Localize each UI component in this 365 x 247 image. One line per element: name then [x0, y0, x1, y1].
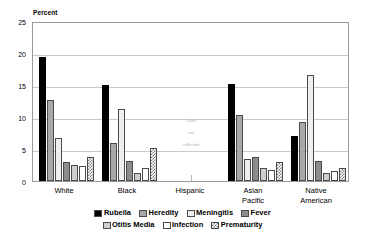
legend-item-otitis-media[interactable]: Otitis Media: [103, 221, 155, 229]
legend-label: Infection: [172, 221, 203, 229]
legend-swatch-icon: [241, 210, 249, 217]
no-data-line: not: [168, 127, 214, 139]
bar-chart: Percent 25 20 15 10 5 0 Datanotcollected…: [0, 0, 365, 247]
bar-asian-pacific-rubella: [228, 84, 235, 181]
legend-row-top: RubellaHeredityMeningitisFever: [0, 207, 365, 219]
bar-native-american-otitis-media: [323, 173, 330, 181]
legend-item-infection[interactable]: Infection: [163, 221, 204, 229]
bar-group-white: [39, 23, 95, 181]
bar-group-native-american: [291, 23, 347, 181]
legend-row-bottom: Otitis MediaInfectionPrematurity: [0, 219, 365, 231]
x-label-line: White: [33, 186, 95, 196]
legend-swatch-icon: [94, 210, 102, 217]
legend-swatch-icon: [187, 210, 195, 217]
x-label-line: Black: [96, 186, 158, 196]
y-tick-label-25: 25: [0, 19, 26, 26]
bar-white-prematurity: [87, 157, 94, 181]
legend-item-prematurity[interactable]: Prematurity: [211, 221, 262, 229]
bar-black-heredity: [110, 143, 117, 181]
bar-white-infection: [79, 166, 86, 181]
bar-black-infection: [142, 168, 149, 181]
legend-swatch-icon: [163, 222, 171, 229]
no-data-line: Data: [168, 115, 214, 127]
legend-label: Heredity: [148, 209, 178, 217]
x-label-hispanic: Hispanic: [159, 186, 221, 196]
legend-label: Fever: [251, 209, 271, 217]
legend-item-fever[interactable]: Fever: [241, 209, 271, 217]
x-label-line: Native: [285, 186, 347, 196]
y-axis-title: Percent: [33, 9, 58, 16]
x-label-line: Hispanic: [159, 186, 221, 196]
bar-white-heredity: [47, 100, 54, 181]
no-data-tick: [191, 175, 192, 181]
bar-white-fever: [63, 162, 70, 181]
legend-label: Meningitis: [196, 209, 233, 217]
bar-white-rubella: [39, 57, 46, 181]
legend-item-meningitis[interactable]: Meningitis: [187, 209, 234, 217]
x-label-line: American: [285, 196, 347, 206]
bar-native-american-prematurity: [339, 168, 346, 181]
y-tick-label-20: 20: [0, 51, 26, 58]
no-data-annotation: Datanotcollected: [168, 115, 214, 151]
bar-native-american-heredity: [299, 122, 306, 181]
legend-label: Otitis Media: [112, 221, 155, 229]
bar-asian-pacific-infection: [268, 170, 275, 181]
bar-native-american-meningitis: [307, 75, 314, 181]
legend-item-heredity[interactable]: Heredity: [139, 209, 179, 217]
bar-black-meningitis: [118, 109, 125, 181]
bar-black-fever: [126, 161, 133, 181]
legend-swatch-icon: [211, 222, 219, 229]
legend-item-rubella[interactable]: Rubella: [94, 209, 131, 217]
legend-swatch-icon: [103, 222, 111, 229]
bar-asian-pacific-prematurity: [276, 162, 283, 181]
x-label-native-american: NativeAmerican: [285, 186, 347, 205]
bar-black-otitis-media: [134, 173, 141, 181]
y-tick-label-10: 10: [0, 115, 26, 122]
x-label-line: Asian: [222, 186, 284, 196]
bar-white-otitis-media: [71, 165, 78, 181]
chart-legend: RubellaHeredityMeningitisFever Otitis Me…: [0, 207, 365, 231]
bar-asian-pacific-fever: [252, 157, 259, 181]
x-label-line: Pacific: [222, 196, 284, 206]
y-tick-label-0: 0: [0, 179, 26, 186]
legend-label: Prematurity: [221, 221, 263, 229]
no-data-line: collected: [168, 139, 214, 151]
legend-label: Rubella: [104, 209, 131, 217]
bar-native-american-rubella: [291, 136, 298, 181]
legend-swatch-icon: [139, 210, 147, 217]
x-label-black: Black: [96, 186, 158, 196]
bar-white-meningitis: [55, 138, 62, 181]
bar-black-prematurity: [150, 148, 157, 181]
bar-asian-pacific-otitis-media: [260, 168, 267, 181]
y-tick-label-5: 5: [0, 147, 26, 154]
bar-black-rubella: [102, 85, 109, 181]
plot-area: Datanotcollected: [32, 22, 349, 182]
bar-group-black: [102, 23, 158, 181]
bar-native-american-fever: [315, 161, 322, 181]
bar-asian-pacific-meningitis: [244, 159, 251, 181]
x-label-white: White: [33, 186, 95, 196]
x-label-asian-pacific: AsianPacific: [222, 186, 284, 205]
bar-native-american-infection: [331, 171, 338, 181]
y-tick-label-15: 15: [0, 83, 26, 90]
bar-asian-pacific-heredity: [236, 115, 243, 181]
bar-group-asian-pacific: [228, 23, 284, 181]
